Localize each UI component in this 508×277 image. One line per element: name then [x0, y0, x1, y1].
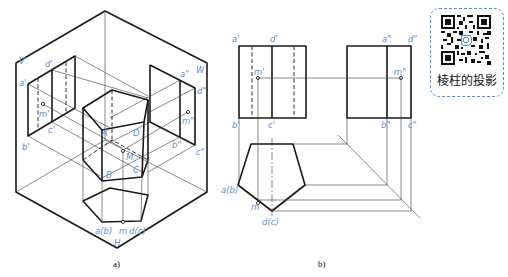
label-d-double: d": [197, 86, 206, 96]
label-c-prime: c': [48, 125, 55, 135]
label-d-c: d(c): [262, 217, 279, 227]
label-m-prime: m': [39, 109, 50, 119]
label-C: C: [133, 165, 139, 175]
figure-b: a' d' m' b' c' a" d" m" b" c" a(b) m d(c…: [221, 34, 420, 269]
plane-label-w: W: [196, 65, 205, 75]
plane-label-h: H: [114, 238, 121, 248]
label-m-prime: m': [254, 67, 265, 77]
caption-b: b): [318, 259, 326, 269]
label-a-double: a": [180, 69, 189, 79]
qr-code-icon[interactable]: [441, 15, 491, 65]
caption-a: a): [113, 259, 120, 269]
label-D: D: [133, 128, 140, 138]
label-c-double: c": [196, 147, 205, 157]
label-m-double: m": [394, 67, 406, 77]
label-a-b: a(b): [95, 226, 112, 236]
label-B: B: [106, 170, 112, 180]
qr-card-title: 棱柱的投影: [431, 71, 503, 88]
label-m: m: [251, 202, 259, 212]
cube-outline: [16, 11, 207, 248]
label-b-prime: b': [232, 120, 240, 130]
label-c-double: c": [408, 120, 417, 130]
label-m-double: m": [182, 116, 194, 126]
label-m: m: [119, 226, 127, 236]
side-view: [347, 46, 411, 118]
label-a-prime: a': [19, 78, 27, 88]
back-right-edge: [105, 140, 207, 192]
label-A: A: [101, 128, 108, 138]
label-a-prime: a': [232, 34, 240, 44]
h-plane-view: [83, 151, 148, 224]
label-d-prime: d': [270, 34, 278, 44]
label-d-c: d(c): [129, 226, 146, 236]
label-b-double: b": [381, 120, 390, 130]
label-a-double: a": [382, 34, 391, 44]
label-b-double: b": [172, 140, 181, 150]
label-d-double: d": [408, 34, 417, 44]
figure-a: V W H a' d' m' b' c' a" d" m" b" c" A D …: [16, 11, 207, 269]
label-b-prime: b': [22, 142, 30, 152]
label-c-prime: c': [268, 120, 275, 130]
mitre-projectors: [258, 78, 420, 218]
label-d-prime: d': [45, 59, 53, 69]
front-view: [239, 46, 306, 118]
qr-card[interactable]: 棱柱的投影: [430, 8, 504, 97]
label-a-b: a(b): [221, 185, 238, 195]
label-M: M: [126, 152, 134, 162]
